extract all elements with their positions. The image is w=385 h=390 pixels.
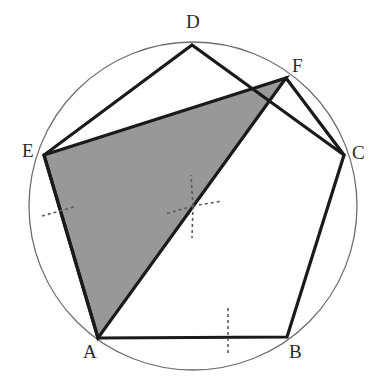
geometry-figure: A B C D E F [0,0,385,390]
segment-C-F [286,78,344,155]
geometry-canvas [0,0,385,390]
vertex-label-A: A [83,342,97,361]
vertex-label-D: D [186,12,200,31]
vertex-label-F: F [292,56,303,75]
vertex-label-B: B [289,342,302,361]
vertex-label-C: C [352,143,365,162]
center-ray-down-icon [192,206,193,238]
vertex-label-E: E [22,141,34,160]
